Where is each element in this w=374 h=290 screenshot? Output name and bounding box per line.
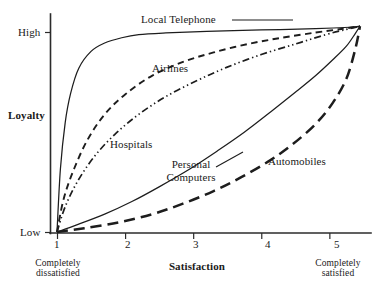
series-label-personal-computers-line1: Personal xyxy=(163,158,219,170)
y-axis-title: Loyalty xyxy=(8,109,45,121)
x-axis-left-cap-line2: dissatisfied xyxy=(26,268,90,279)
series-label-personal-computers-line2: Computers xyxy=(161,171,221,183)
satisfaction-loyalty-chart: High Loyalty Low 1 2 3 4 5 Completely di… xyxy=(0,0,374,290)
series-label-hospitals: Hospitals xyxy=(110,138,152,150)
x-axis-right-cap-line1: Completely xyxy=(306,258,370,269)
curve-personal-computers xyxy=(57,26,360,232)
curve-airlines xyxy=(57,26,360,232)
curve-group xyxy=(57,26,360,232)
series-label-local-telephone: Local Telephone xyxy=(141,13,216,25)
x-tick-label-2: 2 xyxy=(125,238,131,250)
x-axis-right-cap-line2: satisfied xyxy=(306,268,370,279)
x-tick-label-1: 1 xyxy=(54,238,60,250)
x-tick-label-3: 3 xyxy=(193,238,199,250)
x-axis-left-cap-line1: Completely xyxy=(26,258,90,269)
x-tick-label-4: 4 xyxy=(265,238,271,250)
leader-personal-computers xyxy=(216,152,243,167)
series-label-airlines: Airlines xyxy=(152,62,188,74)
y-axis-ticks xyxy=(45,33,51,233)
x-tick-label-5: 5 xyxy=(334,238,340,250)
curve-hospitals xyxy=(57,26,360,232)
curve-local-telephone xyxy=(57,26,360,232)
y-axis-tick-label-high: High xyxy=(18,26,40,38)
curve-automobiles xyxy=(57,26,360,232)
series-label-automobiles: Automobiles xyxy=(268,155,326,167)
y-axis-tick-label-low: Low xyxy=(20,226,40,238)
x-axis-title: Satisfaction xyxy=(156,260,238,272)
